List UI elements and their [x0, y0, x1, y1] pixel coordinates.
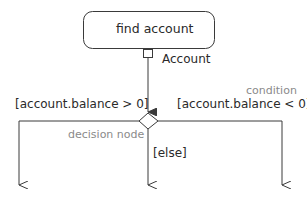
condition-annotation: condition — [246, 85, 297, 96]
decision-node-annotation: decision node — [68, 129, 144, 140]
guard-right: [account.balance < 0] — [177, 98, 307, 110]
activity-diagram: find account Account condition [account.… — [0, 0, 307, 203]
action-label: find account — [116, 23, 194, 36]
guard-left: [account.balance > 0] — [15, 98, 149, 110]
output-pin — [144, 50, 153, 58]
pin-label: Account — [162, 53, 210, 65]
decision-node — [139, 113, 158, 129]
guard-else: [else] — [153, 147, 187, 159]
